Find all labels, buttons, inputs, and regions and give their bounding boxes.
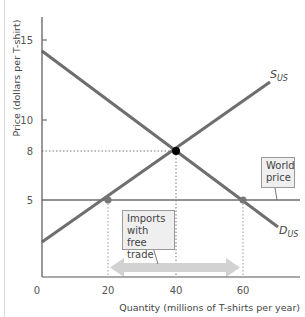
point-q60 — [240, 197, 247, 204]
x-axis-title: Quantity (millions of T-shirts per year) — [119, 302, 300, 313]
equilibrium-point — [172, 147, 180, 155]
imports-callout-line3: trade — [127, 249, 170, 261]
y-tick-label-10: 10 — [20, 115, 33, 126]
world-price-callout-line1: World — [266, 160, 290, 172]
point-q20 — [105, 197, 112, 204]
y-tick-label-8: 8 — [27, 146, 33, 157]
x-tick-label-40: 40 — [170, 285, 183, 296]
x-tick-label-20: 20 — [102, 285, 115, 296]
imports-callout: Imports with free trade — [122, 210, 175, 250]
y-axis-title: Price (dollars per T-shirt) — [11, 20, 22, 137]
y-tick-label-5: 5 — [27, 195, 33, 206]
y-tick-label-15: 15 — [20, 35, 33, 46]
x-tick-label-60: 60 — [237, 285, 250, 296]
chart-frame: 15 10 8 5 0 20 40 60 Quantity (millions … — [0, 0, 305, 317]
chart-svg: 15 10 8 5 0 20 40 60 Quantity (millions … — [0, 0, 305, 317]
imports-callout-line2: with free — [127, 225, 170, 249]
world-price-leader — [275, 188, 277, 200]
imports-callout-line1: Imports — [127, 213, 170, 225]
supply-label: SUS — [270, 68, 288, 83]
x-tick-label-0: 0 — [34, 285, 40, 296]
demand-label: DUS — [279, 224, 298, 239]
world-price-callout: World price — [261, 157, 295, 188]
world-price-callout-line2: price — [266, 172, 290, 184]
page-border — [4, 0, 5, 317]
